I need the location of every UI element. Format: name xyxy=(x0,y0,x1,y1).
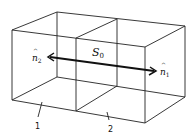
region-2-label: 2 xyxy=(108,125,113,134)
normal-n1-label: n1 xyxy=(160,67,170,78)
two-region-box-diagram: S0 n2 ^ n1 ^ 1 2 xyxy=(0,0,192,138)
hat-n2: ^ xyxy=(33,47,38,54)
region-1-label: 1 xyxy=(35,122,40,131)
surface-label: S0 xyxy=(92,46,104,60)
hat-n1: ^ xyxy=(161,61,166,68)
normal-n2-label: n2 xyxy=(32,53,42,64)
region-2-leader xyxy=(107,112,109,120)
